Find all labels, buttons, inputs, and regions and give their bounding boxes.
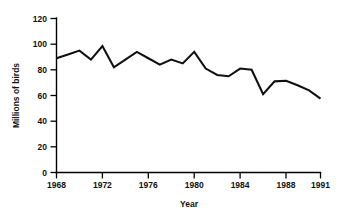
x-tick-label-1968: 1968	[47, 180, 66, 190]
x-tick-label-1976: 1976	[139, 180, 158, 190]
y-tick-label-60: 60	[38, 91, 48, 101]
data-series-line	[57, 46, 321, 99]
y-axis-tick-labels: 120 100 80 60 40 20 0	[33, 14, 47, 178]
y-tick-label-120: 120	[33, 14, 47, 24]
x-axis-title: Year	[180, 199, 199, 209]
y-axis-ticks	[51, 19, 57, 173]
y-tick-label-20: 20	[38, 142, 48, 152]
x-tick-label-1984: 1984	[231, 180, 250, 190]
bird-population-line-chart: 120 100 80 60 40 20 0 1968 1972 1976 198…	[0, 0, 342, 220]
x-tick-label-1972: 1972	[93, 180, 112, 190]
y-tick-label-100: 100	[33, 39, 47, 49]
x-tick-label-1991: 1991	[311, 180, 330, 190]
y-tick-label-40: 40	[38, 116, 48, 126]
x-axis-tick-labels: 1968 1972 1976 1980 1984 1988 1991	[47, 180, 330, 190]
chart-canvas: 120 100 80 60 40 20 0 1968 1972 1976 198…	[0, 0, 342, 220]
y-axis-title: Millions of birds	[11, 63, 21, 128]
y-tick-label-80: 80	[38, 65, 48, 75]
x-tick-label-1980: 1980	[185, 180, 204, 190]
x-axis-ticks	[57, 173, 321, 179]
x-tick-label-1988: 1988	[277, 180, 296, 190]
y-tick-label-0: 0	[42, 168, 47, 178]
